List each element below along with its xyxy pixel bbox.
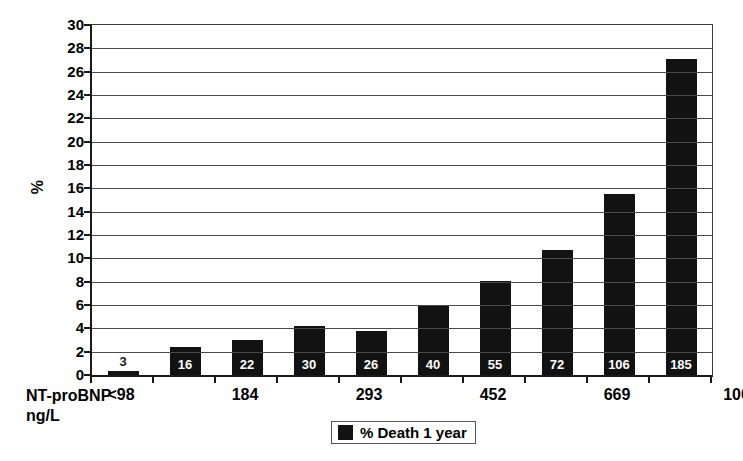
y-axis-tick-label: 14 [50, 203, 84, 218]
bar: 3 [108, 371, 139, 375]
y-axis-tick-label: 28 [50, 40, 84, 55]
x-axis-tick-label: 669 [567, 386, 667, 404]
x-axis-tick-mark [214, 376, 216, 383]
bar-value-label: 106 [604, 358, 635, 371]
bar-chart: % 024681012141618202224262830 3162230264… [0, 0, 743, 461]
x-axis-label-layer: <98184293452669100614912399>4634 [90, 386, 710, 410]
bar-value-label: 3 [108, 355, 139, 368]
y-axis-tick-label: 6 [50, 297, 84, 312]
gridline [92, 165, 712, 166]
plot-area: 316223026405572106185 [90, 24, 713, 377]
y-axis-tick-label: 10 [50, 250, 84, 265]
gridline [92, 352, 712, 353]
bar-value-label: 40 [418, 358, 449, 371]
y-axis-tick-label: 8 [50, 273, 84, 288]
x-axis-tick-mark [276, 376, 278, 383]
legend-swatch-icon [338, 425, 353, 440]
legend-entry-label: % Death 1 year [360, 425, 467, 440]
chart-legend: % Death 1 year [331, 421, 476, 444]
bar: 22 [232, 340, 263, 375]
gridline [92, 48, 712, 49]
bar-value-label: 22 [232, 358, 263, 371]
y-axis-tick-label: 16 [50, 180, 84, 195]
x-axis-tick-label: 293 [319, 386, 419, 404]
x-axis-tick-mark [90, 376, 92, 383]
gridline [92, 95, 712, 96]
gridline [92, 142, 712, 143]
bar-value-label: 30 [294, 358, 325, 371]
gridline [92, 212, 712, 213]
gridline [92, 118, 712, 119]
y-axis-tick-label: 0 [50, 367, 84, 382]
x-axis-tick-mark [400, 376, 402, 383]
y-axis-tick-label: 26 [50, 63, 84, 78]
bar-value-label: 16 [170, 358, 201, 371]
bars-layer: 316223026405572106185 [92, 25, 712, 375]
x-axis-tick-mark [648, 376, 650, 383]
bar: 40 [418, 306, 449, 375]
x-axis-tick-mark [710, 376, 712, 383]
y-axis-tick-label: 24 [50, 87, 84, 102]
x-axis-tick-mark [152, 376, 154, 383]
gridline [92, 72, 712, 73]
bar-value-label: 26 [356, 358, 387, 371]
x-axis-title: NT-proBNP ng/L [26, 386, 111, 426]
bar: 26 [356, 331, 387, 375]
x-axis-tick-label: 1006 [691, 386, 743, 404]
x-axis-tick-label: 184 [195, 386, 295, 404]
y-axis-title: % [29, 167, 47, 207]
x-axis-tick-mark [338, 376, 340, 383]
x-axis-tick-layer [90, 376, 710, 384]
gridline [92, 235, 712, 236]
y-axis-tick-label: 22 [50, 110, 84, 125]
y-axis-tick-label: 4 [50, 320, 84, 335]
gridline [92, 305, 712, 306]
gridline [92, 328, 712, 329]
gridline [92, 282, 712, 283]
gridline [92, 258, 712, 259]
x-axis-tick-mark [524, 376, 526, 383]
bar-value-label: 72 [542, 358, 573, 371]
bar: 30 [294, 326, 325, 375]
x-axis-tick-label: 452 [443, 386, 543, 404]
x-axis-tick-mark [462, 376, 464, 383]
y-axis-tick-label: 20 [50, 133, 84, 148]
y-axis-tick-label: 12 [50, 227, 84, 242]
x-axis-title-line2: ng/L [26, 406, 111, 426]
bar: 106 [604, 194, 635, 375]
y-axis-tick-label: 30 [50, 17, 84, 32]
x-axis-title-line1: NT-proBNP [26, 386, 111, 406]
y-axis-tick-column: 024681012141618202224262830 [46, 24, 84, 374]
bar: 72 [542, 250, 573, 375]
y-axis-tick-label: 2 [50, 343, 84, 358]
bar-value-label: 55 [480, 358, 511, 371]
y-axis-tick-label: 18 [50, 157, 84, 172]
bar-value-label: 185 [666, 358, 697, 371]
gridline [92, 188, 712, 189]
x-axis-tick-mark [586, 376, 588, 383]
